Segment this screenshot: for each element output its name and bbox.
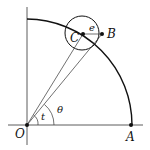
line-OC xyxy=(27,34,83,125)
diagram-canvas: O A B C e t θ xyxy=(0,0,150,150)
point-B xyxy=(100,32,104,36)
point-A xyxy=(129,123,133,127)
point-C xyxy=(81,32,85,36)
quarter-circle-arc xyxy=(27,19,132,125)
label-B: B xyxy=(107,28,116,40)
label-O: O xyxy=(15,128,25,140)
angle-theta-arc xyxy=(45,105,55,126)
label-theta: θ xyxy=(57,105,63,115)
label-t: t xyxy=(41,112,45,122)
label-C: C xyxy=(70,32,79,44)
point-O xyxy=(25,123,29,127)
label-e: e xyxy=(89,23,95,33)
line-OB xyxy=(27,34,102,125)
label-A: A xyxy=(126,131,135,143)
